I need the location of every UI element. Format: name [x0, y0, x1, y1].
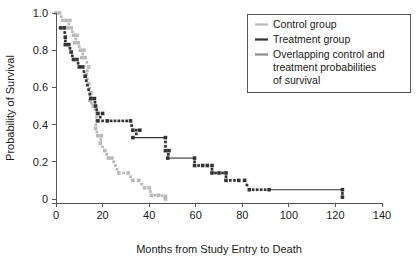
- legend-label-2: Treatment group: [273, 33, 350, 45]
- series-marker: [229, 179, 232, 182]
- x-tick-label: 140: [373, 209, 391, 221]
- series-marker: [122, 172, 125, 175]
- x-tick-label: 120: [326, 209, 344, 221]
- series-marker: [86, 69, 89, 72]
- series-marker: [93, 97, 97, 101]
- series-marker: [72, 34, 76, 38]
- series-marker: [164, 197, 168, 201]
- series-marker: [85, 79, 88, 82]
- legend-label-1: Control group: [273, 18, 337, 30]
- series-marker: [77, 62, 80, 65]
- series-marker: [107, 156, 111, 160]
- series-marker: [86, 84, 89, 87]
- series-marker: [224, 171, 228, 175]
- series-marker: [206, 164, 210, 168]
- series-marker: [75, 58, 79, 62]
- series-marker: [131, 179, 135, 183]
- series-marker: [126, 171, 130, 175]
- series-marker: [118, 120, 121, 123]
- legend: Control groupTreatment groupOverlapping …: [247, 14, 410, 92]
- series-marker: [89, 97, 93, 101]
- series-marker: [210, 164, 214, 168]
- series-marker: [60, 15, 63, 18]
- legend-label-3: of survival: [273, 74, 320, 86]
- series-marker: [94, 127, 98, 131]
- series-marker: [62, 26, 66, 30]
- series-control: [54, 11, 167, 201]
- series-marker: [135, 129, 138, 132]
- series-marker: [64, 40, 67, 43]
- series-marker: [94, 101, 97, 104]
- series-marker: [211, 168, 214, 171]
- series-marker: [79, 48, 83, 52]
- series-marker: [201, 164, 205, 168]
- series-marker: [256, 188, 259, 191]
- series-marker: [341, 188, 345, 192]
- series-marker: [98, 141, 102, 145]
- series-marker: [110, 156, 114, 160]
- series-marker: [95, 116, 98, 119]
- series-marker: [99, 138, 102, 141]
- series-marker: [95, 123, 98, 126]
- series-marker: [143, 186, 147, 190]
- series-marker: [67, 43, 71, 47]
- series-marker: [164, 145, 167, 148]
- series-marker: [71, 30, 74, 33]
- series-marker: [214, 172, 217, 175]
- series-marker: [161, 194, 164, 197]
- series-marker: [137, 179, 141, 183]
- series-marker: [95, 131, 98, 134]
- chart-canvas: 1.00.80.60.40.20020406080100120140 Contr…: [0, 0, 418, 259]
- series-marker: [112, 160, 115, 163]
- legend-label-3: treatment probabilities: [273, 61, 376, 73]
- series-marker: [221, 172, 224, 175]
- y-axis-title: Probability of Survival: [4, 55, 16, 161]
- series-marker: [65, 19, 69, 23]
- series-marker: [68, 19, 72, 23]
- series-marker: [150, 193, 154, 197]
- series-marker: [101, 120, 104, 123]
- series-marker: [164, 149, 168, 153]
- series-marker: [167, 149, 171, 153]
- x-tick-label: 100: [280, 209, 298, 221]
- series-marker: [63, 31, 66, 34]
- series-marker: [252, 188, 255, 191]
- series-marker: [83, 56, 87, 60]
- y-tick-label: 0: [42, 193, 48, 205]
- series-marker: [94, 104, 98, 108]
- series-marker: [73, 41, 77, 45]
- y-tick-label: 0.2: [33, 156, 48, 168]
- series-marker: [81, 65, 85, 69]
- series-marker: [101, 146, 104, 149]
- y-tick-label: 0.4: [33, 119, 48, 131]
- series-marker: [103, 149, 107, 153]
- series-marker: [66, 26, 70, 30]
- series-marker: [131, 128, 135, 132]
- series-marker: [71, 54, 74, 57]
- series-marker: [121, 120, 124, 123]
- series-marker: [110, 120, 113, 123]
- series-marker: [64, 43, 68, 47]
- series-marker: [80, 56, 84, 60]
- series-marker: [247, 188, 251, 192]
- series-marker: [197, 164, 200, 167]
- series-marker: [341, 195, 345, 199]
- series-marker: [69, 26, 73, 30]
- series-marker: [116, 168, 119, 171]
- series-marker: [233, 179, 236, 182]
- series-marker: [129, 119, 133, 123]
- series-marker: [341, 192, 344, 195]
- series-marker: [96, 119, 100, 123]
- series-marker: [101, 112, 105, 116]
- series-marker: [105, 153, 108, 156]
- series-marker: [87, 88, 90, 91]
- x-tick-label: 40: [143, 209, 155, 221]
- series-marker: [86, 61, 89, 64]
- series-marker: [138, 128, 142, 132]
- series-marker: [75, 34, 79, 38]
- series-marker: [193, 160, 196, 163]
- series-marker: [77, 65, 81, 69]
- series-marker: [140, 183, 143, 186]
- y-tick-label: 0.8: [33, 44, 48, 56]
- y-tick-label: 0.6: [33, 81, 48, 93]
